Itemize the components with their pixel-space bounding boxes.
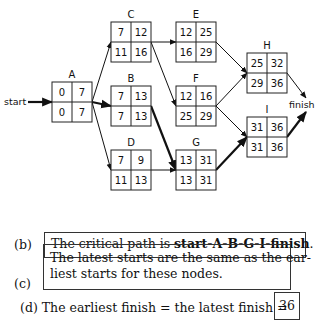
answer-c-box: The latest starts are the same as the ea… xyxy=(43,244,291,290)
node-es-value: 7 xyxy=(118,91,124,102)
answer-b-tag: (b) xyxy=(14,237,32,253)
node-ef-value: 36 xyxy=(271,122,284,133)
node-es-value: 12 xyxy=(180,91,193,102)
node-lf-value: 16 xyxy=(135,47,148,58)
answer-d-tag: (d) xyxy=(20,300,38,315)
node-label: H xyxy=(263,40,271,51)
node-label: C xyxy=(128,9,135,20)
node-label: F xyxy=(193,73,199,84)
node-es-value: 13 xyxy=(180,155,193,166)
node-lf-value: 7 xyxy=(79,107,85,118)
answer-d-value: 36 xyxy=(279,298,295,313)
edge-A-D xyxy=(92,102,111,170)
node-es-value: 7 xyxy=(118,155,124,166)
node-A: A0707 xyxy=(52,69,92,122)
edge-E-H xyxy=(216,42,247,73)
node-lf-value: 13 xyxy=(135,175,148,186)
node-ls-value: 0 xyxy=(59,107,65,118)
node-ef-value: 25 xyxy=(200,27,213,38)
answer-c-tag: (c) xyxy=(14,276,31,292)
edge-A-C xyxy=(92,42,111,102)
node-label: G xyxy=(192,137,200,148)
node-D: D791113 xyxy=(111,137,151,190)
answer-d: (d) The earliest finish = the latest fin… xyxy=(20,300,287,316)
node-ls-value: 16 xyxy=(180,47,193,58)
node-lf-value: 13 xyxy=(135,111,148,122)
edge-I-finish xyxy=(287,112,306,137)
node-ls-value: 11 xyxy=(115,175,128,186)
node-ef-value: 9 xyxy=(138,155,144,166)
node-lf-value: 29 xyxy=(200,47,213,58)
node-ef-value: 12 xyxy=(135,27,148,38)
node-label: I xyxy=(266,104,269,115)
node-es-value: 25 xyxy=(251,58,264,69)
node-ls-value: 31 xyxy=(251,142,264,153)
node-ls-value: 7 xyxy=(118,111,124,122)
node-G: G13311331 xyxy=(176,137,216,190)
answer-c-line2: liest starts for these nodes. xyxy=(50,266,284,282)
edge-C-F xyxy=(151,42,176,106)
nodes: A0707C7121116B713713D791113E12251629F121… xyxy=(52,9,287,190)
node-lf-value: 36 xyxy=(271,78,284,89)
finish-label: finish xyxy=(289,99,315,110)
answer-d-text: The earliest finish = the latest finish … xyxy=(42,300,288,315)
start-label: start xyxy=(4,96,26,107)
node-label: B xyxy=(128,73,135,84)
node-lf-value: 36 xyxy=(271,142,284,153)
node-ls-value: 13 xyxy=(180,175,193,186)
node-C: C7121116 xyxy=(111,9,151,62)
node-ef-value: 7 xyxy=(79,87,85,98)
node-label: D xyxy=(127,137,135,148)
edge-F-H xyxy=(216,73,247,106)
answer-d-value-box: 36 xyxy=(274,292,300,320)
node-es-value: 0 xyxy=(59,87,65,98)
node-ls-value: 25 xyxy=(180,111,193,122)
node-lf-value: 29 xyxy=(200,111,213,122)
edge-G-I xyxy=(216,137,247,170)
node-ef-value: 16 xyxy=(200,91,213,102)
node-ef-value: 13 xyxy=(135,91,148,102)
node-lf-value: 31 xyxy=(200,175,213,186)
node-H: H25322936 xyxy=(247,40,287,93)
edge-B-G xyxy=(151,106,176,170)
node-I: I31363136 xyxy=(247,104,287,157)
node-label: E xyxy=(193,9,199,20)
node-es-value: 7 xyxy=(118,27,124,38)
node-F: F12162529 xyxy=(176,73,216,126)
node-label: A xyxy=(69,69,76,80)
edge-A-B xyxy=(92,102,111,106)
node-ls-value: 29 xyxy=(251,78,264,89)
node-ef-value: 31 xyxy=(200,155,213,166)
node-es-value: 12 xyxy=(180,27,193,38)
edge-H-finish xyxy=(287,73,306,98)
edge-F-I xyxy=(216,106,247,137)
answer-b-period: . xyxy=(310,236,314,251)
answer-c-line1: The latest starts are the same as the ea… xyxy=(50,250,284,266)
node-ls-value: 11 xyxy=(115,47,128,58)
node-ef-value: 32 xyxy=(271,58,284,69)
node-E: E12251629 xyxy=(176,9,216,62)
node-es-value: 31 xyxy=(251,122,264,133)
node-B: B713713 xyxy=(111,73,151,126)
